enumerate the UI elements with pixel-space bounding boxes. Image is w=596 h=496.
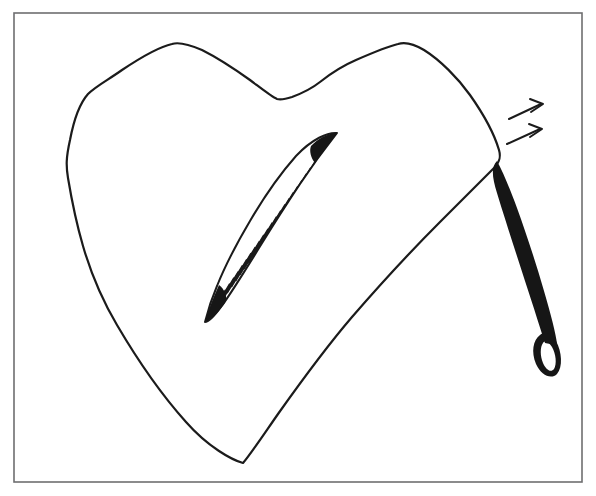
drawing-canvas: A hand-drawn outline of a heart with a h… [0, 0, 596, 496]
heart-needle-illustration [0, 0, 596, 496]
paper-background [0, 0, 596, 496]
